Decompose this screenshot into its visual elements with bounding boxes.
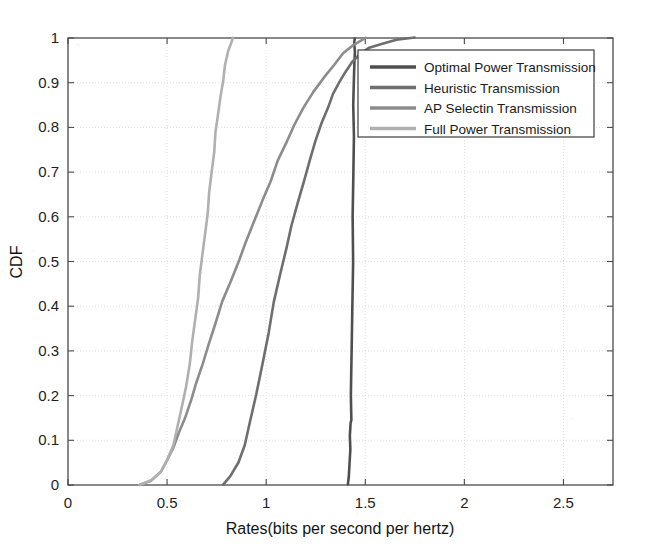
y-tick-label: 0.5 bbox=[38, 253, 59, 270]
y-tick-label: 0.9 bbox=[38, 74, 59, 91]
y-tick-label: 0.8 bbox=[38, 118, 59, 135]
legend-label-3: Full Power Transmission bbox=[424, 122, 571, 137]
y-tick-label: 0.7 bbox=[38, 163, 59, 180]
x-axis-title: Rates(bits per second per hertz) bbox=[226, 520, 455, 537]
legend-label-0: Optimal Power Transmission bbox=[424, 60, 596, 75]
x-tick-label: 0 bbox=[64, 494, 72, 511]
cdf-chart: 00.511.522.5 00.10.20.30.40.50.60.70.80.… bbox=[0, 0, 650, 558]
y-axis-title: CDF bbox=[8, 245, 25, 278]
legend-label-1: Heuristic Transmission bbox=[424, 81, 560, 96]
x-tick-label: 1.5 bbox=[355, 494, 376, 511]
x-tick-label: 1 bbox=[262, 494, 270, 511]
x-tick-label: 2 bbox=[460, 494, 468, 511]
x-tick-label: 0.5 bbox=[157, 494, 178, 511]
x-tick-label: 2.5 bbox=[553, 494, 574, 511]
y-tick-label: 0 bbox=[51, 476, 59, 493]
y-tick-label: 0.4 bbox=[38, 297, 59, 314]
y-axis-tick-labels: 00.10.20.30.40.50.60.70.80.91 bbox=[38, 29, 59, 493]
y-tick-label: 0.1 bbox=[38, 431, 59, 448]
y-tick-label: 0.2 bbox=[38, 387, 59, 404]
y-tick-label: 1 bbox=[51, 29, 59, 46]
y-tick-label: 0.6 bbox=[38, 208, 59, 225]
figure-container: 00.511.522.5 00.10.20.30.40.50.60.70.80.… bbox=[0, 0, 650, 558]
legend-label-2: AP Selectin Transmission bbox=[424, 101, 577, 116]
legend: Optimal Power TransmissionHeuristic Tran… bbox=[358, 50, 596, 137]
y-tick-label: 0.3 bbox=[38, 342, 59, 359]
x-axis-tick-labels: 00.511.522.5 bbox=[64, 494, 574, 511]
